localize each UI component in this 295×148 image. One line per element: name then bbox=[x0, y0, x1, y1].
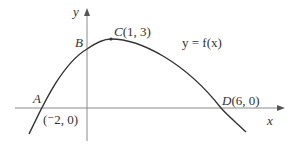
point-b-label: B bbox=[75, 36, 83, 49]
x-axis-label: x bbox=[267, 114, 273, 127]
point-c-marker bbox=[109, 37, 112, 40]
x-axis-arrow-icon bbox=[277, 105, 285, 111]
y-axis-arrow-icon bbox=[84, 8, 90, 16]
point-a-coord: (⁻2, 0) bbox=[43, 113, 78, 126]
point-d-label: D(6, 0) bbox=[222, 94, 260, 107]
function-graph: y x y = f(x) A (⁻2, 0) B C(1, 3) D(6, 0) bbox=[0, 0, 295, 148]
y-axis-label: y bbox=[73, 5, 79, 18]
function-label: y = f(x) bbox=[182, 36, 222, 49]
point-a-label: A bbox=[33, 92, 41, 105]
point-c-label: C(1, 3) bbox=[114, 25, 151, 38]
